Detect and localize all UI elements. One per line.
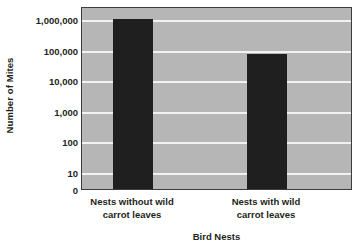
x-axis-tick-label-line: Nests with wild bbox=[232, 196, 301, 209]
x-axis-title: Bird Nests bbox=[81, 231, 352, 242]
y-axis-tick-label: 10 bbox=[14, 167, 78, 178]
y-axis-tick-label: 0 bbox=[14, 185, 78, 196]
y-axis-tick-label: 1,000,000 bbox=[14, 15, 78, 26]
bar bbox=[247, 54, 287, 189]
x-axis-tick-label-line: carrot leaves bbox=[232, 209, 301, 222]
x-axis-tick-label: Nests without wildcarrot leaves bbox=[90, 196, 173, 221]
bar bbox=[113, 19, 153, 189]
y-axis-tick-label: 1,000 bbox=[14, 106, 78, 117]
y-axis-tick-labels: 1,000,000100,00010,0001,000100100 bbox=[14, 0, 78, 200]
x-axis-tick-label: Nests with wildcarrot leaves bbox=[232, 196, 301, 221]
y-axis-tick-label: 100 bbox=[14, 137, 78, 148]
bar-chart-figure: Number of Mites 1,000,000100,00010,0001,… bbox=[0, 0, 364, 252]
y-axis-tick-label: 100,000 bbox=[14, 45, 78, 56]
plot-area bbox=[81, 7, 352, 190]
x-axis-tick-label-line: Nests without wild bbox=[90, 196, 173, 209]
x-axis-tick-label-line: carrot leaves bbox=[90, 209, 173, 222]
y-axis-tick-label: 10,000 bbox=[14, 76, 78, 87]
x-axis-tick-labels: Nests without wildcarrot leavesNests wit… bbox=[81, 196, 352, 234]
